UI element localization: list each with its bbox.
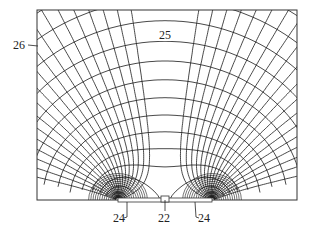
field-diagram: 26 25 24 22 24 [0,0,314,238]
label-25: 25 [159,28,171,42]
contour-line [70,132,260,193]
label-22: 22 [158,211,170,225]
field-line [71,4,129,199]
label-24-right: 24 [198,211,210,225]
field-line [55,5,125,199]
field-line [180,5,210,200]
contour-line [58,115,272,187]
field-line [28,134,116,199]
contour-line [30,61,304,139]
label-26: 26 [13,38,25,52]
contour-line [30,41,304,106]
field-line [213,120,305,199]
field-line [205,5,275,199]
label-24-left: 24 [113,211,125,225]
field-line [120,5,150,200]
field-line [201,4,259,199]
